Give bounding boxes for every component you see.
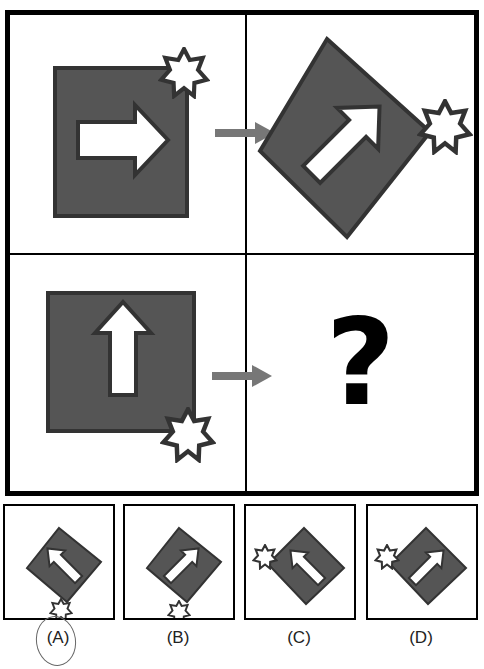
cell-bottom-left [10,255,245,491]
option-d-label[interactable]: (D) [366,628,476,648]
option-a-box[interactable] [3,504,115,620]
square-with-right-arrow [10,15,245,253]
puzzle-grid: ? [5,10,479,496]
option-c-box[interactable] [244,504,356,620]
cell-top-right [247,15,474,253]
question-mark: ? [247,303,474,423]
cell-top-left [10,15,245,253]
star-icon [168,601,189,618]
option-b-label[interactable]: (B) [123,628,233,648]
star-icon [420,101,469,151]
option-c-label[interactable]: (C) [244,628,354,648]
handdrawn-circle-mark [33,613,80,668]
option-b-box[interactable] [123,504,235,620]
cell-bottom-right: ? [247,255,474,491]
option-d-box[interactable] [366,504,478,620]
rotated-square-with-up-right-arrow [247,15,474,253]
square-with-up-arrow [10,255,245,491]
